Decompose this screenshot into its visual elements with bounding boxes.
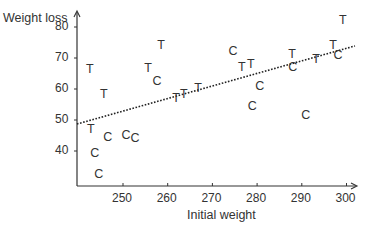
point-marker-c: C	[255, 79, 264, 93]
x-tick-label: 300	[336, 191, 356, 205]
point-marker-c: C	[228, 44, 237, 58]
x-axis-label: Initial weight	[187, 208, 256, 222]
point-marker-c: C	[103, 130, 112, 144]
point-marker-c: C	[248, 99, 257, 113]
point-marker-t: T	[100, 87, 108, 101]
point-marker-c: C	[94, 167, 103, 181]
point-marker-t: T	[247, 57, 255, 71]
x-tick-label: 260	[157, 191, 177, 205]
point-marker-t: T	[87, 122, 95, 136]
point-marker-t: T	[157, 38, 165, 52]
point-marker-t: T	[194, 81, 202, 95]
y-tick-label: 40	[55, 143, 68, 157]
point-marker-t: T	[238, 60, 246, 74]
x-tick-label: 250	[112, 191, 132, 205]
y-tick-label: 80	[55, 19, 68, 33]
x-tick-label: 290	[291, 191, 311, 205]
data-points: TTTTTTTTTTTTTTCCCCCCCCCCCC	[86, 13, 347, 181]
point-marker-c: C	[333, 48, 342, 62]
point-marker-c: C	[90, 146, 99, 160]
point-marker-t: T	[288, 47, 296, 61]
y-tick-label: 60	[55, 81, 68, 95]
point-marker-t: T	[144, 61, 152, 75]
point-marker-t: T	[312, 52, 320, 66]
point-marker-c: C	[288, 60, 297, 74]
x-tick-label: 270	[201, 191, 221, 205]
point-marker-c: C	[122, 128, 131, 142]
point-marker-c: C	[301, 108, 310, 122]
axes	[74, 11, 357, 189]
y-tick-label: 50	[55, 112, 68, 126]
point-marker-c: C	[131, 131, 140, 145]
point-marker-t: T	[339, 13, 347, 27]
point-marker-t: T	[86, 62, 94, 76]
ticks	[74, 27, 347, 186]
y-tick-label: 70	[55, 50, 68, 64]
x-tick-label: 280	[246, 191, 266, 205]
point-marker-c: C	[152, 74, 161, 88]
point-marker-t: T	[180, 87, 188, 101]
